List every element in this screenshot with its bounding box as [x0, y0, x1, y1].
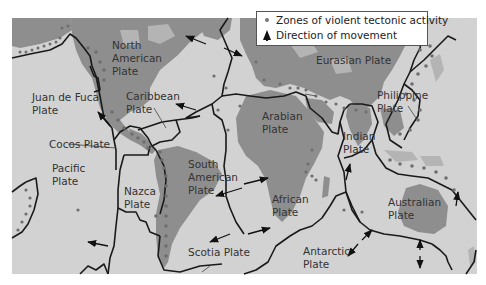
legend-label-activity: Zones of violent tectonic activity: [276, 14, 448, 26]
label-scotia-plate: Scotia Plate: [188, 246, 250, 258]
label-eurasian-plate: Eurasian Plate: [316, 54, 391, 66]
legend-item-activity: Zones of violent tectonic activity: [263, 14, 448, 26]
dot-icon: [265, 18, 269, 22]
arrow-up-icon: [263, 30, 271, 40]
map-legend: Zones of violent tectonic activity Direc…: [256, 11, 428, 46]
label-cocos-plate: Cocos Plate: [49, 138, 110, 150]
legend-label-movement: Direction of movement: [276, 29, 397, 41]
legend-item-movement: Direction of movement: [263, 29, 397, 41]
